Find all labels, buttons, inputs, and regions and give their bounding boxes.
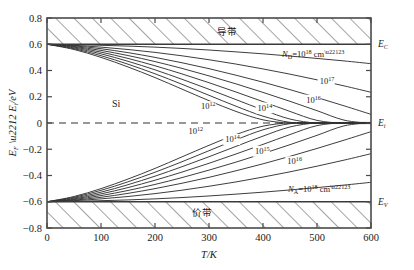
chart-svg: −0.8−0.6−0.4−0.200.20.40.60.8 0100200300…	[0, 0, 414, 270]
y-tick-label: −0.8	[23, 223, 42, 234]
x-tick-label: 100	[93, 232, 109, 243]
y-tick-label: 0.2	[29, 91, 42, 102]
material-label: Si	[112, 98, 121, 109]
x-tick-label: 600	[363, 232, 379, 243]
y-tick-label: 0.8	[29, 13, 42, 24]
y-tick-label: 0	[37, 118, 42, 129]
fermi-level-chart: −0.8−0.6−0.4−0.200.20.40.60.8 0100200300…	[0, 0, 414, 270]
valence-band-label: 价带	[192, 207, 212, 218]
y-tick-label: −0.2	[23, 144, 42, 155]
y-tick-label: 0.6	[29, 39, 42, 50]
x-axis-title: T/K	[201, 249, 218, 260]
y-tick-label: 0.4	[29, 65, 43, 76]
x-tick-label: 400	[255, 232, 271, 243]
x-tick-label: 200	[147, 232, 163, 243]
conduction-band-label: 导带	[217, 26, 237, 37]
x-tick-label: 300	[201, 232, 217, 243]
svg-text:EF \u2212 Ei/eV: EF \u2212 Ei/eV	[7, 88, 19, 157]
y-tick-label: −0.4	[23, 170, 43, 181]
x-tick-label: 500	[309, 232, 325, 243]
y-tick-label: −0.6	[23, 196, 42, 207]
y-axis-title: EF \u2212 Ei/eV	[7, 88, 19, 157]
x-tick-label: 0	[44, 232, 49, 243]
